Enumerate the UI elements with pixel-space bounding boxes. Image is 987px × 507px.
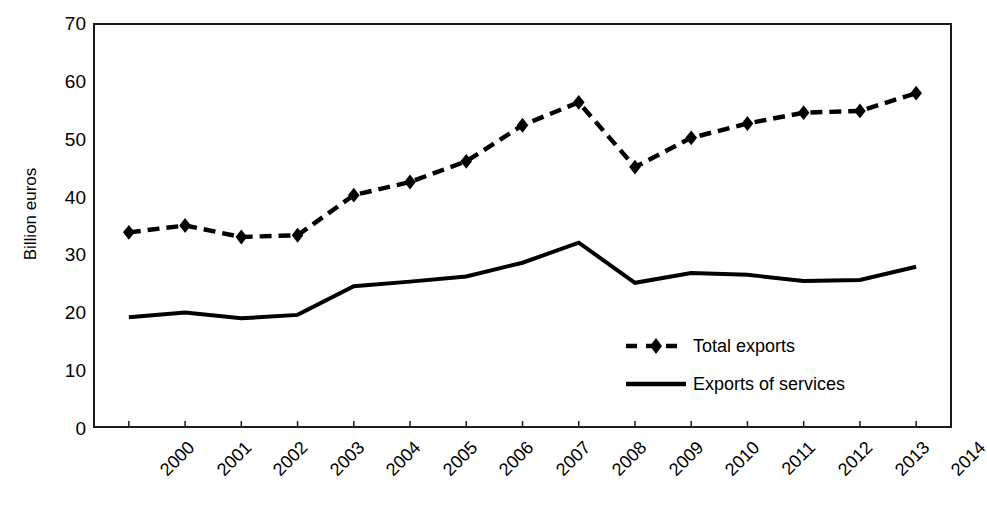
x-axis-tick-label: 2014 xyxy=(948,438,987,479)
y-axis-tick-label: 0 xyxy=(75,419,86,438)
series-marker-diamond xyxy=(798,105,810,120)
series-marker-diamond xyxy=(123,225,135,240)
y-axis-tick-label: 10 xyxy=(65,361,86,380)
dashed-diamond-key xyxy=(625,336,687,356)
solid-line-key xyxy=(625,374,687,394)
y-axis-tick-label: 60 xyxy=(65,71,86,90)
y-axis-tick-label: 40 xyxy=(65,187,86,206)
x-axis-tick-label: 2011 xyxy=(778,438,818,478)
x-axis-tick-label: 2001 xyxy=(213,438,254,479)
series-marker-diamond xyxy=(179,218,191,233)
series-marker-diamond xyxy=(629,160,641,175)
x-axis-tick-label: 2000 xyxy=(157,438,198,479)
y-axis-tick-label: 30 xyxy=(65,245,86,264)
series-marker-diamond xyxy=(685,130,697,145)
x-axis-tick-label: 2003 xyxy=(326,438,367,479)
series-marker-diamond xyxy=(404,175,416,190)
x-axis-tick-label: 2002 xyxy=(270,438,311,479)
series-marker-diamond xyxy=(910,86,922,101)
series-marker-diamond xyxy=(742,116,754,131)
y-axis-title: Billion euros xyxy=(14,0,48,428)
x-axis-tick-label: 2007 xyxy=(552,438,593,479)
x-axis-tick-label: 2012 xyxy=(835,438,876,479)
y-axis-tick-label: 70 xyxy=(65,14,86,33)
series-line xyxy=(129,93,916,237)
x-axis-tick-label: 2010 xyxy=(722,438,763,479)
legend-item-label: Total exports xyxy=(687,337,795,355)
series-line xyxy=(129,243,916,319)
x-axis-tick-label: 2006 xyxy=(496,438,537,479)
legend-item[interactable]: Exports of services xyxy=(625,365,925,403)
legend-item[interactable]: Total exports xyxy=(625,327,925,365)
legend-diamond-icon xyxy=(650,338,662,354)
y-axis-title-text: Billion euros xyxy=(21,168,41,261)
x-axis-tick-label: 2005 xyxy=(439,438,480,479)
x-axis-tick-label: 2008 xyxy=(609,438,650,479)
y-axis-tick-labels: 706050403020100 xyxy=(48,0,86,460)
y-axis-tick-label: 50 xyxy=(65,129,86,148)
x-axis-tick-label: 2004 xyxy=(383,438,424,479)
series-marker-diamond xyxy=(854,104,866,119)
x-axis-tick-label: 2013 xyxy=(891,438,932,479)
chart-legend: Total exportsExports of services xyxy=(625,327,925,403)
x-axis-tick-labels: 2000200120022003200420052006200720082009… xyxy=(93,428,952,507)
series-marker-diamond xyxy=(235,230,247,245)
legend-item-label: Exports of services xyxy=(687,375,845,393)
line-chart: Billion euros 706050403020100 2000200120… xyxy=(0,0,987,507)
series-marker-diamond xyxy=(573,95,585,110)
x-axis-tick-label: 2009 xyxy=(665,438,706,479)
y-axis-tick-label: 20 xyxy=(65,303,86,322)
